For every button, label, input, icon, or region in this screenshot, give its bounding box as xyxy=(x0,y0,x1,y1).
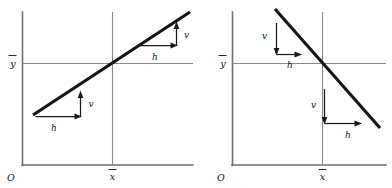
left-y-mean-label-text: y xyxy=(9,58,16,69)
positive-slope-panel: h v h v y x xyxy=(7,12,193,183)
left-origin-label: O xyxy=(7,172,15,183)
left-lower-rise-arrowhead xyxy=(78,91,84,99)
negative-slope-panel: v h v h y x O xyxy=(217,9,386,183)
right-lower-slope-triangle xyxy=(322,89,362,126)
left-upper-slope-triangle xyxy=(139,22,180,49)
left-lower-slope-triangle xyxy=(36,91,84,120)
right-y-mean-label-text: y xyxy=(219,58,226,69)
right-x-mean-label-text: x xyxy=(320,171,326,182)
right-upper-run-label: h xyxy=(287,60,293,70)
left-upper-rise-label: v xyxy=(184,30,189,40)
figure-canvas: h v h v y x xyxy=(0,0,392,188)
left-y-mean-label: y xyxy=(9,56,17,70)
right-lower-rise-label: v xyxy=(311,100,316,110)
right-lower-run-label: h xyxy=(345,130,351,140)
right-upper-rise-label: v xyxy=(262,31,267,41)
right-upper-run-arrowhead xyxy=(295,52,303,58)
left-upper-run-label: h xyxy=(152,52,158,62)
left-x-mean-label: x xyxy=(109,170,117,183)
right-lower-run-arrowhead xyxy=(355,121,363,127)
right-upper-slope-triangle xyxy=(274,23,302,57)
right-y-mean-label: y xyxy=(219,56,227,70)
left-lower-run-label: h xyxy=(51,123,57,133)
left-lower-rise-label: v xyxy=(89,99,94,109)
right-x-mean-label: x xyxy=(319,170,327,183)
figure-root: h v h v y x xyxy=(0,0,392,188)
right-origin-label: O xyxy=(217,172,225,183)
left-x-mean-label-text: x xyxy=(110,171,116,182)
